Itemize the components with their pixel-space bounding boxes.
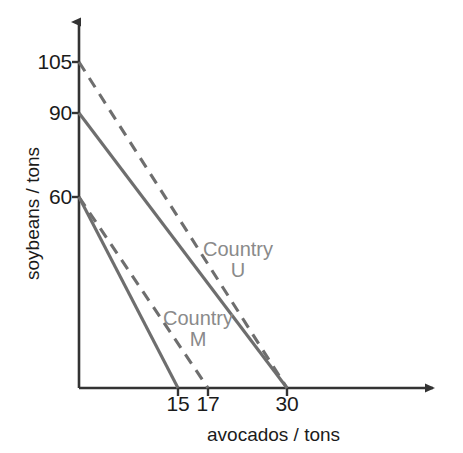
y-tick-label-90: 90 bbox=[12, 101, 72, 125]
country-u-label-line1: Country bbox=[203, 238, 273, 260]
country-u-label: Country U bbox=[203, 239, 273, 281]
country-m-label: Country M bbox=[163, 308, 233, 350]
country-m-label-line2: M bbox=[163, 329, 233, 350]
x-tick-label-30: 30 bbox=[262, 392, 312, 416]
country-m-label-line1: Country bbox=[163, 307, 233, 329]
y-tick-label-105: 105 bbox=[12, 50, 72, 74]
x-axis-title: avocados / tons bbox=[207, 424, 340, 446]
ppf-chart: 105 90 60 15 17 30 soybeans / tons avoca… bbox=[0, 0, 463, 453]
country-m-dashed-line bbox=[79, 197, 208, 388]
y-axis-title: soybeans / tons bbox=[22, 147, 44, 280]
country-u-label-line2: U bbox=[203, 260, 273, 281]
x-tick-label-17: 17 bbox=[183, 392, 233, 416]
